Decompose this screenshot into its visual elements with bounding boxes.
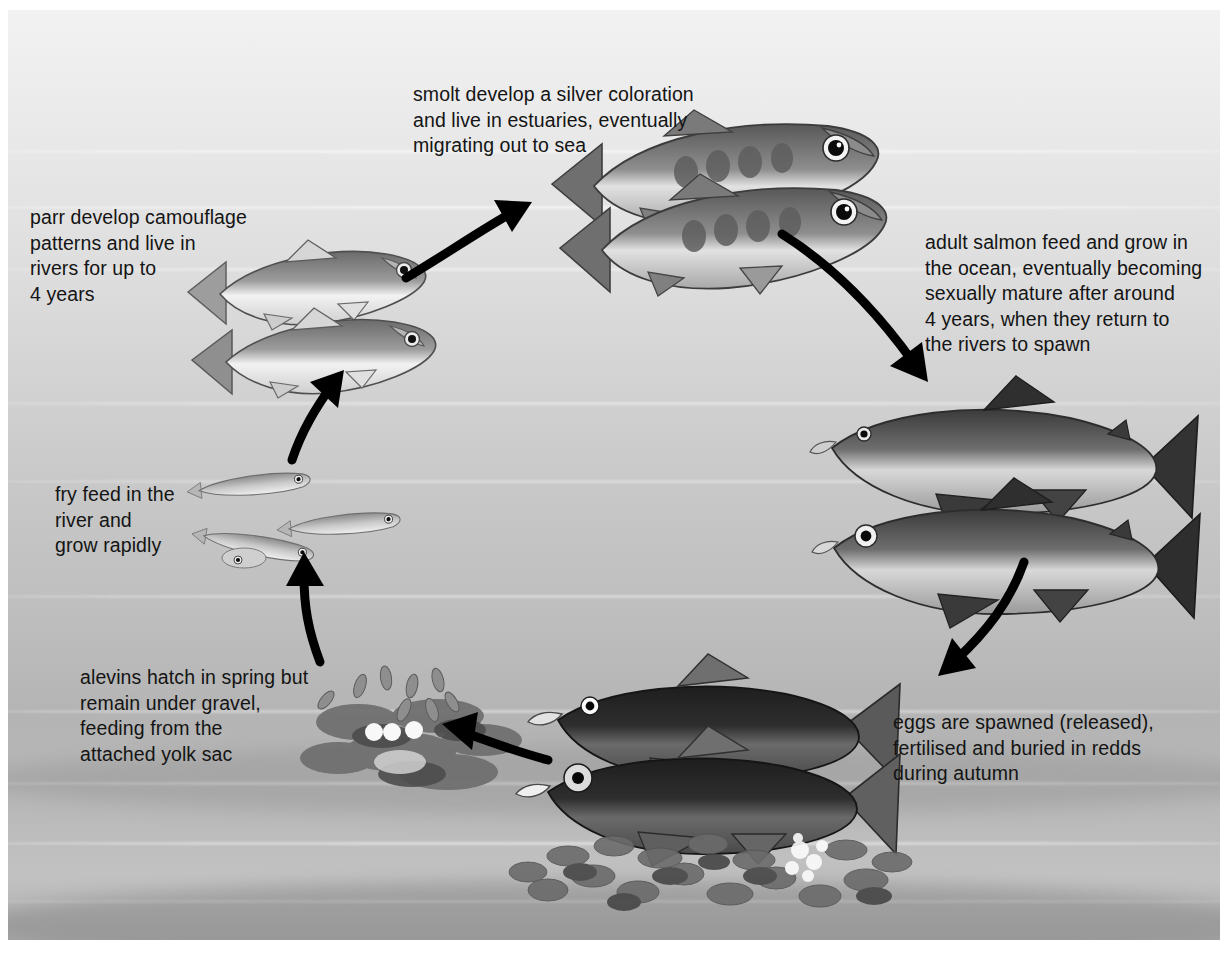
stage-label-alevin: alevins hatch in spring but remain under…: [80, 665, 360, 767]
stage-label-adult: adult salmon feed and grow in the ocean,…: [925, 230, 1220, 358]
arrow-adult-to-eggs: [938, 562, 1024, 676]
arrow-alevin-to-fry: [286, 552, 324, 662]
arrow-fry-to-parr: [292, 370, 344, 460]
stage-label-eggs: eggs are spawned (released), fertilised …: [893, 710, 1213, 787]
arrow-smolt-to-adult: [782, 234, 928, 382]
arrow-eggs-to-alevin: [442, 712, 548, 760]
underwater-scene: smolt develop a silver coloration and li…: [8, 10, 1220, 940]
stage-label-parr: parr develop camouflage patterns and liv…: [30, 205, 300, 307]
arrow-parr-to-smolt: [406, 200, 532, 278]
stage-label-smolt: smolt develop a silver coloration and li…: [413, 82, 743, 159]
stage-label-fry: fry feed in the river and grow rapidly: [55, 482, 225, 559]
salmon-life-cycle-figure: smolt develop a silver coloration and li…: [0, 0, 1228, 960]
